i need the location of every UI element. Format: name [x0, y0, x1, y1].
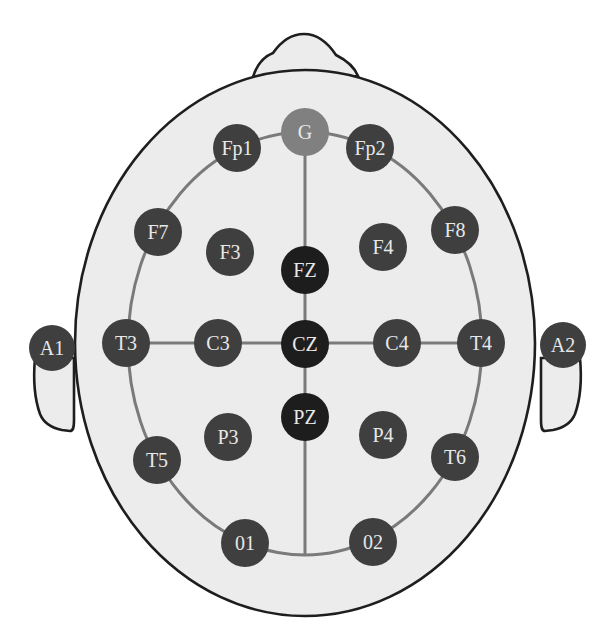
- electrode-label: F8: [444, 219, 465, 241]
- electrode-C4: C4: [373, 319, 421, 367]
- electrode-label: FZ: [293, 259, 316, 281]
- electrode-PZ: PZ: [281, 393, 329, 441]
- electrode-label: T6: [444, 446, 466, 468]
- electrode-O2: 02: [349, 518, 397, 566]
- electrode-label: C4: [385, 332, 408, 354]
- electrode-F3: F3: [206, 228, 254, 276]
- electrode-P3: P3: [204, 413, 252, 461]
- electrode-A2: A2: [540, 322, 586, 368]
- electrode-G: G: [281, 108, 329, 156]
- electrode-label: 02: [363, 531, 383, 553]
- eeg-head-diagram: G Fp1 Fp2 F7 F3 FZ F4 F8 A1 T3 C3 C: [0, 0, 612, 642]
- electrode-label: A2: [551, 334, 575, 356]
- electrode-label: F3: [219, 241, 240, 263]
- electrode-P4: P4: [359, 411, 407, 459]
- electrode-FZ: FZ: [281, 246, 329, 294]
- electrode-label: Fp2: [354, 137, 385, 160]
- electrode-F7: F7: [134, 208, 182, 256]
- electrode-label: G: [298, 121, 312, 143]
- electrode-label: A1: [40, 337, 64, 359]
- electrode-label: P4: [372, 424, 393, 446]
- electrode-label: T4: [470, 332, 492, 354]
- electrode-C3: C3: [194, 319, 242, 367]
- electrode-label: F7: [147, 221, 168, 243]
- electrode-Fp1: Fp1: [213, 124, 261, 172]
- electrode-T4: T4: [457, 319, 505, 367]
- electrode-label: T5: [146, 449, 168, 471]
- electrode-T6: T6: [431, 433, 479, 481]
- electrode-label: Fp1: [221, 137, 252, 160]
- electrode-O1: 01: [221, 519, 269, 567]
- electrode-label: 01: [235, 532, 255, 554]
- electrode-label: F4: [372, 236, 393, 258]
- electrode-CZ: CZ: [281, 320, 329, 368]
- electrode-label: C3: [206, 332, 229, 354]
- electrode-F4: F4: [359, 223, 407, 271]
- right-ear-outline: [541, 358, 581, 431]
- electrode-T3: T3: [102, 319, 150, 367]
- electrode-F8: F8: [431, 206, 479, 254]
- electrode-A1: A1: [29, 325, 75, 371]
- electrode-Fp2: Fp2: [346, 124, 394, 172]
- electrode-label: T3: [115, 332, 137, 354]
- electrode-label: P3: [217, 426, 238, 448]
- electrode-label: CZ: [292, 333, 318, 355]
- electrode-label: PZ: [293, 406, 316, 428]
- electrode-T5: T5: [133, 436, 181, 484]
